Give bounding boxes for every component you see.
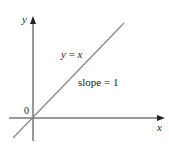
line-graph-figure: y x 0 y = x slope = 1 <box>0 0 169 149</box>
graph-canvas: y x 0 y = x slope = 1 <box>0 0 169 149</box>
y-axis-label: y <box>21 13 27 25</box>
line-equation-label: y = x <box>60 48 83 60</box>
y-axis <box>30 16 36 141</box>
slope-label: slope = 1 <box>78 76 118 88</box>
origin-label: 0 <box>24 105 29 116</box>
x-axis-label: x <box>156 121 162 133</box>
y-axis-arrow-icon <box>30 16 36 24</box>
